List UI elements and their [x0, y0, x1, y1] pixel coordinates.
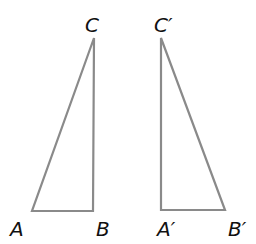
vertex-label-c: C: [85, 13, 99, 37]
triangle-abc: C A B: [8, 13, 110, 241]
vertex-label-c-prime: C′: [154, 13, 173, 37]
triangle-a-prime-b-prime-c-prime-outline: [161, 38, 225, 210]
triangle-abc-outline: [32, 38, 94, 211]
vertex-label-b: B: [96, 217, 110, 241]
vertex-label-a: A: [8, 217, 24, 241]
vertex-label-a-prime: A′: [155, 217, 176, 241]
vertex-label-b-prime: B′: [228, 217, 247, 241]
triangle-a-prime-b-prime-c-prime: C′ A′ B′: [154, 13, 247, 241]
triangle-reflection-diagram: C A B C′ A′ B′: [0, 0, 256, 244]
